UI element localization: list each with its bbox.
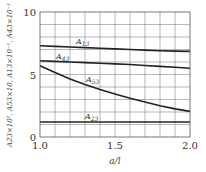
y-tick-label: 5 [30, 70, 36, 81]
x-tick-label: 1.0 [32, 140, 48, 151]
label-a13: A13 [75, 37, 90, 47]
y-axis-ticks: 0510 [23, 7, 36, 143]
y-axis-label: A23×10², A53×10, A13×10⁻¹, A43×10⁻¹ [6, 3, 14, 148]
label-a23: A23 [84, 112, 99, 122]
label-a53: A53 [85, 75, 100, 85]
x-axis-ticks: 1.01.52.0 [32, 140, 198, 151]
y-tick-label: 10 [23, 7, 36, 18]
grid [40, 12, 190, 137]
x-tick-label: 1.5 [107, 140, 123, 151]
x-axis-label: a/l [109, 156, 120, 166]
label-a43: A43 [55, 52, 70, 62]
x-tick-label: 2.0 [182, 140, 198, 151]
chart: 0510 1.01.52.0 a/l A23×10², A53×10, A13×… [0, 0, 206, 172]
